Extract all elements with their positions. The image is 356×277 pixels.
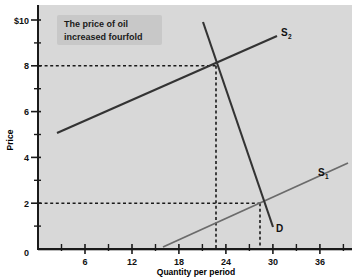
y-tick-label-4: 4 [24,153,29,163]
chart-figure: $10 8 6 4 2 0 6 12 18 24 30 36 [0,0,356,277]
y-tick-label-8: 8 [24,61,29,71]
annotation-line-1: The price of oil [64,19,128,29]
x-tick-label-18: 18 [174,257,184,267]
x-tick-label-24: 24 [221,257,231,267]
y-tick-label-0: 0 [24,248,29,258]
y-axis-title: Price [5,129,15,150]
curve-label-d: D [276,223,283,234]
y-tick-label-6: 6 [24,107,29,117]
curve-label-s1: S [318,167,325,178]
supply-demand-chart: $10 8 6 4 2 0 6 12 18 24 30 36 [0,0,356,277]
x-tick-label-6: 6 [82,257,87,267]
curve-label-s2: S [281,27,288,38]
annotation-line-2: increased fourfold [64,32,143,42]
y-tick-label-10: $10 [14,16,29,26]
y-tick-label-2: 2 [24,199,29,209]
x-axis-title: Quantity per period [157,267,235,277]
x-tick-label-30: 30 [268,257,278,267]
x-tick-label-36: 36 [315,257,325,267]
curve-label-s2-subscript: 2 [288,33,292,40]
curve-label-s1-subscript: 1 [325,173,329,180]
x-tick-label-12: 12 [127,257,137,267]
